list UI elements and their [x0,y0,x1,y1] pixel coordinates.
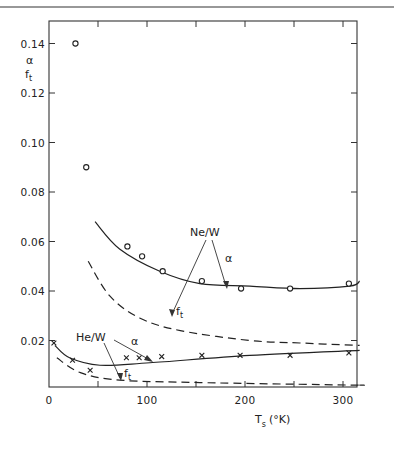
he-data-point [124,355,129,360]
x-axis-ticks: 0100200300 [46,21,354,406]
he-data-point [137,355,142,360]
y-tick-label: 0.06 [20,236,45,248]
ne-alpha-label: α [225,252,232,265]
y-tick-label: 0.02 [20,335,45,347]
y-tick-label: 0.10 [20,137,45,149]
he-data-point [159,354,164,359]
x-tick-label: 300 [333,394,354,406]
ne-data-point [140,254,145,259]
y-tick-label: 0.08 [20,186,45,198]
he-data-point [199,353,204,358]
he-data-point [88,368,93,373]
ne-w-label: Ne/W [190,226,220,239]
y-axis-label-f: ft [25,68,32,83]
ne-data-point [287,286,292,291]
data-markers [52,41,352,373]
he-ft-arrow [104,343,120,378]
y-axis-label-alpha: α [26,54,33,67]
he-alpha-label: α [131,335,138,348]
alpha-curve [55,345,360,365]
y-axis-ticks: 0.020.040.060.080.100.120.14 [20,38,357,347]
ft-curve [88,261,359,345]
ne-ft-arrowhead [169,309,175,317]
he-alpha-arrowhead [144,355,153,362]
ne-data-point [73,41,78,46]
chart-figure: 0100200300 0.020.040.060.080.100.120.14 … [0,0,394,449]
ne-data-point [346,281,351,286]
ne-ft-arrow [172,240,206,314]
y-tick-label: 0.12 [20,87,45,99]
he-data-point [52,341,57,346]
x-tick-label: 100 [137,394,158,406]
y-tick-label: 0.14 [20,38,45,50]
ne-data-point [199,279,204,284]
x-tick-label: 0 [46,394,53,406]
ft-curve [57,358,365,385]
curves [55,222,365,386]
ne-data-point [84,165,89,170]
y-tick-label: 0.04 [20,285,45,297]
ne-data-point [125,244,130,249]
ne-ft-label: ft [176,305,183,320]
x-axis-label: Ts(°K) [254,413,290,429]
ne-data-point [160,269,165,274]
ne-alpha-arrow [212,240,226,286]
he-w-label: He/W [76,331,106,344]
x-tick-label: 200 [235,394,256,406]
he-ft-label: ft [124,367,131,382]
ne-data-point [238,286,243,291]
